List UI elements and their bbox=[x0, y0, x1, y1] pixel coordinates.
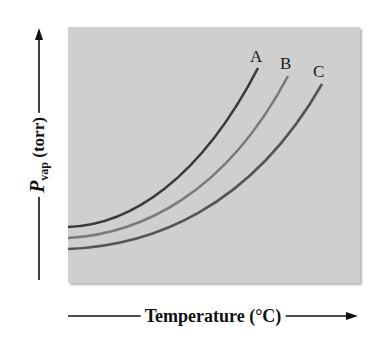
curve-label-c: C bbox=[313, 62, 324, 82]
curve-a bbox=[68, 68, 258, 227]
y-axis-label: Pvap (torr) bbox=[26, 113, 52, 197]
x-axis-arrowhead bbox=[346, 312, 358, 320]
y-axis-arrowhead bbox=[35, 28, 43, 40]
x-axis-label: Temperature (°C) bbox=[141, 306, 286, 327]
curve-label-a: A bbox=[250, 47, 262, 67]
curve-b bbox=[68, 76, 288, 238]
y-axis-subscript: vap bbox=[37, 162, 51, 181]
y-axis-unit: (torr) bbox=[29, 117, 48, 162]
curve-label-b: B bbox=[280, 54, 291, 74]
y-axis-symbol: P bbox=[26, 181, 48, 193]
curve-c bbox=[68, 84, 322, 249]
curves-layer bbox=[0, 0, 381, 341]
